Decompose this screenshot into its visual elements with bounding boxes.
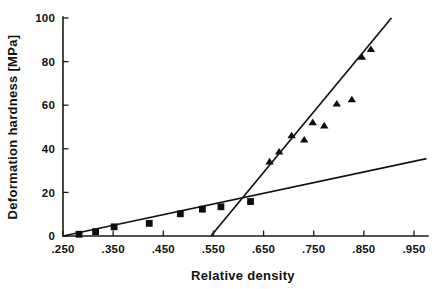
data-point-square: [146, 220, 153, 227]
x-tick-label: .650: [252, 243, 275, 255]
data-point-square: [111, 223, 118, 230]
data-point-square: [76, 231, 83, 238]
data-point-triangle: [300, 136, 308, 143]
data-point-square: [218, 203, 225, 210]
y-tick-label: 0: [48, 230, 55, 242]
y-tick-label: 20: [42, 187, 55, 199]
data-point-square: [199, 206, 206, 213]
y-tick-label: 80: [42, 56, 55, 68]
x-tick-label: .550: [202, 243, 225, 255]
x-tick-label: .750: [302, 243, 325, 255]
data-point-square: [92, 228, 99, 235]
x-tick-label: .350: [102, 243, 125, 255]
chart-figure: 020406080100.250.350.450.550.650.750.850…: [0, 0, 434, 289]
data-point-triangle: [320, 122, 328, 129]
y-axis-title: Deformation hardness [MPa]: [5, 35, 20, 220]
data-point-square: [177, 210, 184, 217]
data-point-square: [247, 198, 254, 205]
data-points: [76, 46, 375, 238]
x-tick-label: .450: [152, 243, 175, 255]
data-point-triangle: [348, 96, 356, 103]
x-tick-label: .850: [352, 243, 375, 255]
data-point-triangle: [333, 100, 341, 107]
y-tick-label: 40: [42, 143, 55, 155]
chart-canvas: 020406080100.250.350.450.550.650.750.850…: [0, 0, 434, 289]
data-point-triangle: [309, 119, 317, 126]
y-tick-label: 100: [35, 12, 55, 24]
x-tick-label: .250: [51, 243, 74, 255]
steep-fit-line: [211, 18, 392, 236]
x-axis-title: Relative density: [191, 268, 295, 283]
x-tick-label: .950: [402, 243, 425, 255]
y-tick-label: 60: [42, 99, 55, 111]
